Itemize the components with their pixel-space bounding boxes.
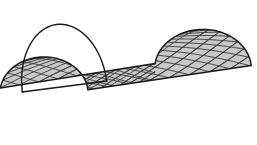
- figure-root: [0, 0, 257, 145]
- half-cylinder-diagram: [0, 0, 257, 145]
